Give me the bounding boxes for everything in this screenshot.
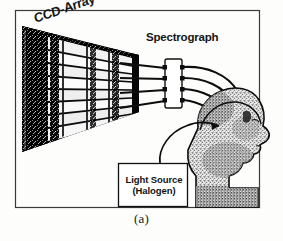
light-source-label-line1: Light Source — [120, 174, 188, 185]
spectrograph-box — [163, 59, 185, 108]
figure-caption: (a) — [0, 211, 283, 227]
head-profile — [188, 88, 269, 208]
ccd-spectral-bands — [48, 30, 132, 155]
ccd-array-panel — [22, 26, 140, 155]
light-source-label-line2: (Halogen) — [120, 185, 188, 196]
figure-panel-a: CCD-Array Spectrograph Light Source (Hal… — [0, 0, 283, 241]
spectrograph-label: Spectrograph — [146, 31, 218, 43]
figure-illustration — [0, 0, 283, 241]
